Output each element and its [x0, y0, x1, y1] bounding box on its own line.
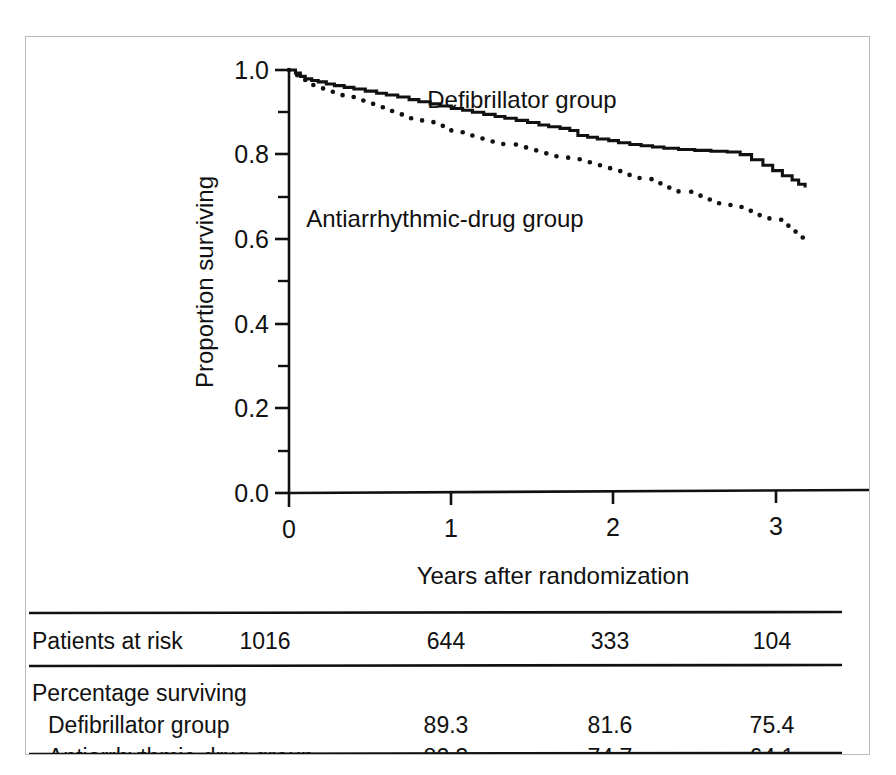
x-axis-title: Years after randomization	[417, 562, 690, 589]
figure-frame: 1.0 0.8 0.6 0.4 0.2 0.0 Proportion survi…	[25, 36, 870, 755]
table-cell-defib-year3: 75.4	[750, 712, 795, 738]
table-cell-at-risk-year1: 644	[427, 628, 466, 654]
y-axis-title: Proportion surviving	[191, 176, 218, 388]
table-row-label-percentage-surviving: Percentage surviving	[32, 680, 247, 706]
table-cell-at-risk-year0: 1016	[239, 628, 290, 654]
survival-plot: 1.0 0.8 0.6 0.4 0.2 0.0 Proportion survi…	[26, 37, 869, 754]
antiarrhythmic-drug-group-annotation: Antiarrhythmic-drug group	[306, 205, 583, 232]
x-tick-label-1: 1	[444, 514, 458, 542]
y-tick-label-1: 1.0	[234, 56, 269, 84]
table-cell-defib-year2: 81.6	[588, 712, 633, 738]
defibrillator-group-annotation: Defibrillator group	[427, 86, 616, 113]
table-row-label-patients-at-risk: Patients at risk	[32, 628, 183, 654]
table-row-label-defibrillator-group: Defibrillator group	[48, 712, 230, 738]
y-tick-label-04: 0.4	[234, 310, 269, 338]
x-tick-label-2: 2	[606, 513, 620, 541]
table-cell-defib-year1: 89.3	[424, 712, 469, 738]
x-axis-line	[289, 490, 869, 493]
table-cell-at-risk-year3: 104	[753, 628, 792, 654]
table-cell-drug-year3: 64.1	[750, 744, 795, 754]
y-tick-label-02: 0.2	[234, 394, 269, 422]
table-cell-at-risk-year2: 333	[591, 628, 629, 654]
table-rule-top	[29, 612, 842, 613]
x-tick-label-3: 3	[769, 512, 783, 540]
table-cell-drug-year2: 74.7	[588, 744, 633, 754]
figure-root: 1.0 0.8 0.6 0.4 0.2 0.0 Proportion survi…	[0, 0, 896, 775]
y-tick-label-00: 0.0	[234, 479, 269, 507]
table-rule-middle	[29, 665, 842, 666]
table-cell-drug-year1: 82.3	[424, 744, 469, 754]
x-tick-label-0: 0	[282, 515, 296, 543]
y-tick-label-06: 0.6	[234, 225, 269, 253]
table-row-label-antiarrhythmic-drug-group: Antiarrhythmic-drug group	[48, 744, 314, 754]
y-axis-minor-ticks	[278, 112, 289, 451]
y-tick-label-08: 0.8	[234, 140, 269, 168]
